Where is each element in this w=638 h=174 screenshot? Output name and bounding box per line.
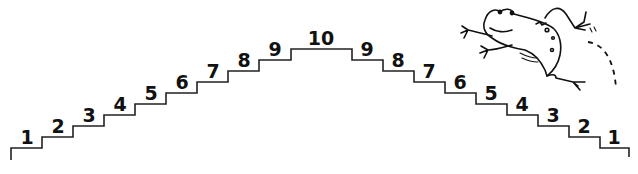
step-label-down-4: 4 [515,95,528,114]
jump-trajectory-arc [588,42,616,88]
frog-jumping-icon [461,8,596,90]
step-label-down-2: 2 [577,117,590,136]
step-label-up-1: 1 [20,128,33,147]
step-label-down-5: 5 [484,84,497,103]
step-label-down-8: 8 [391,51,404,70]
step-label-up-7: 7 [206,62,219,81]
step-label-up-8: 8 [237,51,250,70]
step-label-up-3: 3 [82,106,95,125]
step-label-down-9: 9 [360,40,373,59]
step-label-down-6: 6 [453,73,466,92]
staircase-outline [11,49,629,160]
step-label-down-7: 7 [422,62,435,81]
step-label-up-2: 2 [51,117,64,136]
step-label-up-6: 6 [175,73,188,92]
step-label-down-3: 3 [546,106,559,125]
step-label-up-4: 4 [113,95,126,114]
step-label-up-9: 9 [268,40,281,59]
step-label-up-5: 5 [144,84,157,103]
number-staircase-diagram: 1 2 3 4 5 6 7 8 9 10 9 8 7 6 5 4 3 2 1 [0,0,638,174]
step-label-peak-10: 10 [308,29,334,48]
step-label-down-1: 1 [607,128,620,147]
